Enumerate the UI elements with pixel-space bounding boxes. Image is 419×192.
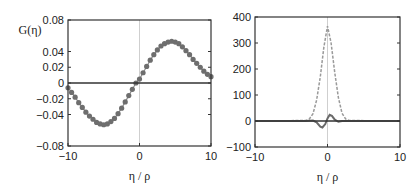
- data-point-marker: [137, 76, 142, 81]
- data-point-marker: [123, 99, 128, 104]
- left-plot: 0.080.040.020−0.02−0.04−0.08−10010η / ρG…: [19, 14, 218, 183]
- x-axis-label: η / ρ: [129, 169, 151, 183]
- data-point-marker: [126, 93, 131, 98]
- data-point-marker: [183, 48, 188, 53]
- y-tick-label: 0.02: [43, 61, 64, 73]
- right-plot: 4003002001000−100−10010η / ρ: [226, 11, 406, 184]
- y-tick-label: 300: [233, 37, 251, 49]
- data-point-marker: [115, 111, 120, 116]
- data-point-marker: [69, 90, 74, 95]
- data-point-marker: [76, 100, 81, 105]
- y-tick-label: 100: [233, 89, 251, 101]
- data-point-marker: [119, 106, 124, 111]
- chart-figure: 0.080.040.020−0.02−0.04−0.08−10010η / ρG…: [0, 0, 419, 192]
- data-point-marker: [80, 105, 85, 110]
- x-axis-label: η / ρ: [317, 170, 339, 184]
- data-point-marker: [180, 44, 185, 49]
- data-point-marker: [148, 58, 153, 63]
- data-point-marker: [151, 52, 156, 57]
- x-tick-label: 0: [136, 150, 142, 162]
- y-tick-label: 400: [233, 11, 251, 23]
- data-point-marker: [130, 87, 135, 92]
- data-point-marker: [140, 70, 145, 75]
- data-point-marker: [73, 95, 78, 100]
- data-point-marker: [155, 47, 160, 52]
- y-axis-label: G(η): [19, 23, 42, 37]
- y-tick-label: 0: [58, 77, 64, 89]
- data-point-marker: [112, 116, 117, 121]
- x-tick-label: 0: [324, 151, 330, 163]
- data-point-marker: [187, 52, 192, 57]
- y-tick-label: −0.02: [36, 93, 64, 105]
- data-point-marker: [144, 64, 149, 69]
- y-tick-label: 0.08: [43, 14, 64, 26]
- y-tick-label: 200: [233, 63, 251, 75]
- y-tick-label: 0.04: [43, 46, 64, 58]
- data-point-marker: [198, 65, 203, 70]
- x-tick-label: −10: [59, 150, 78, 162]
- y-tick-label: 0: [245, 115, 251, 127]
- x-tick-label: −10: [246, 151, 265, 163]
- x-tick-label: 10: [394, 151, 406, 163]
- data-point-marker: [194, 61, 199, 66]
- y-tick-label: −0.04: [36, 109, 64, 121]
- x-tick-label: 10: [205, 150, 217, 162]
- data-point-marker: [83, 110, 88, 115]
- data-point-marker: [191, 57, 196, 62]
